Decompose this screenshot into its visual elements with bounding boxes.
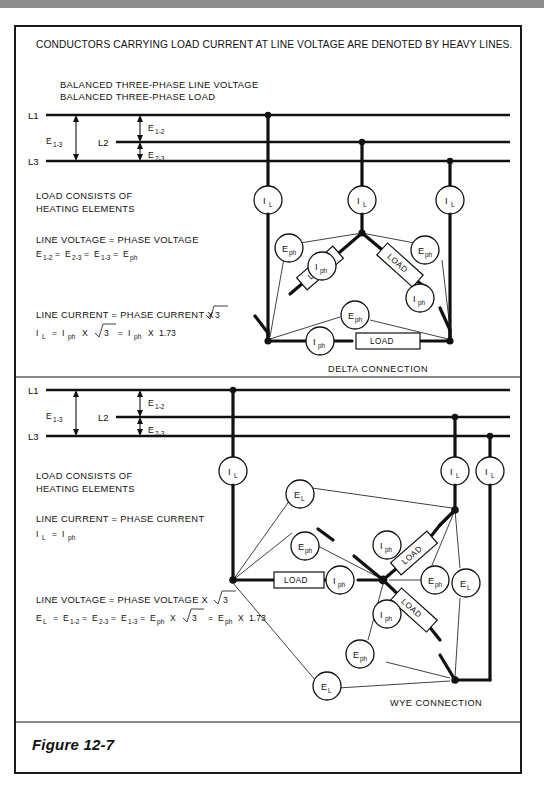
wcf-il-sub: L [42, 534, 46, 541]
wye-load-1-label: LOAD [284, 576, 308, 585]
delta-iph-1-sub: ph [320, 267, 328, 275]
delta-il-3-base: I [445, 196, 448, 206]
delta-rail-label-l2: L2 [98, 137, 109, 148]
wye-dim-e13: E 1-3 [46, 390, 79, 436]
delta-current-formula: I L = I ph X 3 = I ph X 1.73 [36, 324, 176, 341]
wye-dim-e12-sub: 1-2 [155, 403, 165, 410]
wvf-eq2: = [82, 613, 87, 623]
delta-phase-voltage-meter-2: E ph [411, 236, 439, 264]
dvf-eq-2: = [84, 249, 89, 259]
wye-iph-3-base: I [380, 610, 383, 620]
dcf-factor: 1.73 [159, 328, 176, 338]
delta-il-3-sub: L [451, 201, 455, 208]
dvf-eq-3: = [113, 249, 118, 259]
wye-eph-2-base: E [428, 576, 434, 586]
wye-line-voltage-meter-1: E L [286, 480, 314, 508]
wye-line-voltage-meter-3: E L [313, 672, 341, 700]
wye-iph-1-sub: ph [338, 581, 346, 589]
wye-il-2-sub: L [456, 472, 460, 479]
dcf-iph2-sub: ph [134, 333, 142, 341]
dcf-iph1-sub: ph [68, 333, 76, 341]
delta-eph-2-base: E [418, 246, 424, 256]
delta-dim-e23-sub: 2-3 [155, 155, 165, 162]
dcf-times1: X [82, 328, 88, 338]
delta-dim-e23: E 2-3 [137, 142, 165, 162]
wye-phase-current-meter-1: I ph [326, 566, 354, 594]
delta-eph-2-sub: ph [425, 251, 433, 259]
dcf-il-sub: L [42, 333, 46, 340]
page-canvas: CONDUCTORS CARRYING LOAD CURRENT AT LINE… [0, 0, 544, 791]
dvf-e23-sub: 2-3 [72, 254, 82, 261]
dcf-iph1-base: I [62, 328, 64, 338]
delta-dim-e13-base: E [46, 136, 52, 146]
delta-current-rule-text: LINE CURRENT = PHASE CURRENT X [36, 309, 214, 320]
wye-load-1: LOAD [274, 572, 324, 588]
wye-il-3-sub: L [491, 472, 495, 479]
wvf-factor: 1.73 [249, 613, 266, 623]
wye-eph-2-sub: ph [435, 581, 443, 589]
dcf-times2: X [148, 328, 154, 338]
wye-eph-1-sub: ph [305, 547, 313, 555]
wye-il-2-base: I [450, 467, 453, 477]
dvf-eq-1: = [55, 249, 60, 259]
wye-eph-3-sub: ph [360, 655, 368, 663]
wvf-eph1-sub: ph [157, 618, 165, 626]
wye-line-current-meter-1: I L [219, 457, 247, 485]
wye-phase-voltage-meter-2: E ph [421, 566, 449, 594]
delta-voltage-formula: E 1-2 = E 2-3 = E 1-3 = E ph [36, 249, 138, 262]
wye-voltage-radicand: 3 [223, 595, 228, 605]
wye-rail-label-l2: L2 [98, 412, 109, 423]
wvf-el-sub: L [43, 618, 47, 625]
delta-phase-voltage-meter-3: E ph [341, 301, 369, 329]
wvf-eph2-base: E [218, 613, 224, 623]
delta-line-current-meter-3: I L [436, 186, 464, 214]
wvf-e13-sub: 1-3 [128, 618, 138, 625]
delta-il-1-sub: L [269, 201, 273, 208]
dvf-eph-base: E [123, 249, 129, 259]
delta-note-2: HEATING ELEMENTS [36, 203, 135, 214]
wvf-eq4: = [140, 613, 145, 623]
three-phase-connections-diagram: CONDUCTORS CARRYING LOAD CURRENT AT LINE… [0, 0, 544, 791]
dcf-eq1: = [52, 328, 57, 338]
wvf-eq1: = [53, 613, 58, 623]
delta-heading-2: BALANCED THREE-PHASE LOAD [60, 91, 215, 102]
wye-iph-2-sub: ph [385, 546, 393, 554]
wye-current-rule-text: LINE CURRENT = PHASE CURRENT [36, 513, 204, 524]
wvf-e13-base: E [121, 613, 127, 623]
delta-dim-e12-sub: 1-2 [155, 128, 165, 135]
delta-voltage-rule-text: LINE VOLTAGE = PHASE VOLTAGE [36, 234, 199, 245]
wye-eph-1-base: E [298, 542, 304, 552]
wye-line-current-meter-2: I L [441, 457, 469, 485]
wye-el-1-base: E [294, 490, 300, 500]
wye-voltage-rule-radical: 3 [214, 591, 236, 605]
dcf-eq2: = [118, 328, 123, 338]
wcf-iph-sub: ph [68, 534, 76, 542]
delta-load-3-label: LOAD [370, 337, 394, 346]
wvf-times2: X [238, 613, 244, 623]
dcf-iph2-base: I [128, 328, 130, 338]
wvf-eph2-sub: ph [225, 618, 233, 626]
wye-il-3-base: I [485, 467, 488, 477]
wye-el-2-sub: L [467, 584, 471, 591]
wye-current-formula: I L = I ph [36, 529, 76, 542]
wye-el-1-sub: L [301, 495, 305, 502]
delta-il-2-base: I [357, 196, 360, 206]
wvf-e12-base: E [63, 613, 69, 623]
wvf-radicand: 3 [192, 613, 197, 623]
delta-iph-2-base: I [413, 294, 416, 304]
dcf-radicand: 3 [104, 328, 109, 338]
delta-phase-current-meter-1: I ph [308, 252, 336, 280]
dvf-e12-sub: 1-2 [43, 254, 53, 261]
delta-eph-1-sub: ph [289, 249, 297, 257]
wye-rail-label-l1: L1 [28, 385, 39, 396]
delta-eph-3-sub: ph [355, 316, 363, 324]
delta-rail-label-l3: L3 [28, 156, 39, 167]
wvf-times1: X [170, 613, 176, 623]
wye-iph-1-base: I [333, 576, 336, 586]
wvf-eq3: = [111, 613, 116, 623]
delta-il-2-sub: L [363, 201, 367, 208]
delta-phase-voltage-meter-1: E ph [275, 234, 303, 262]
wye-voltage-rule-text: LINE VOLTAGE = PHASE VOLTAGE X [36, 594, 209, 605]
delta-dim-e12-base: E [148, 123, 154, 133]
wye-voltage-formula: E L = E 1-2 = E 2-3 = E 1-3 = E ph X 3 =… [36, 609, 266, 626]
